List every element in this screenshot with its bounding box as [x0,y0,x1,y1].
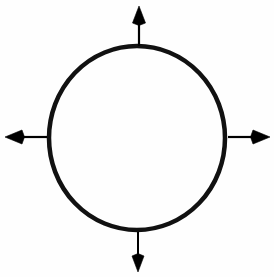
figure-canvas: Circle with four outward radial arrows A… [0,0,274,277]
radial-arrows-diagram [0,0,274,277]
